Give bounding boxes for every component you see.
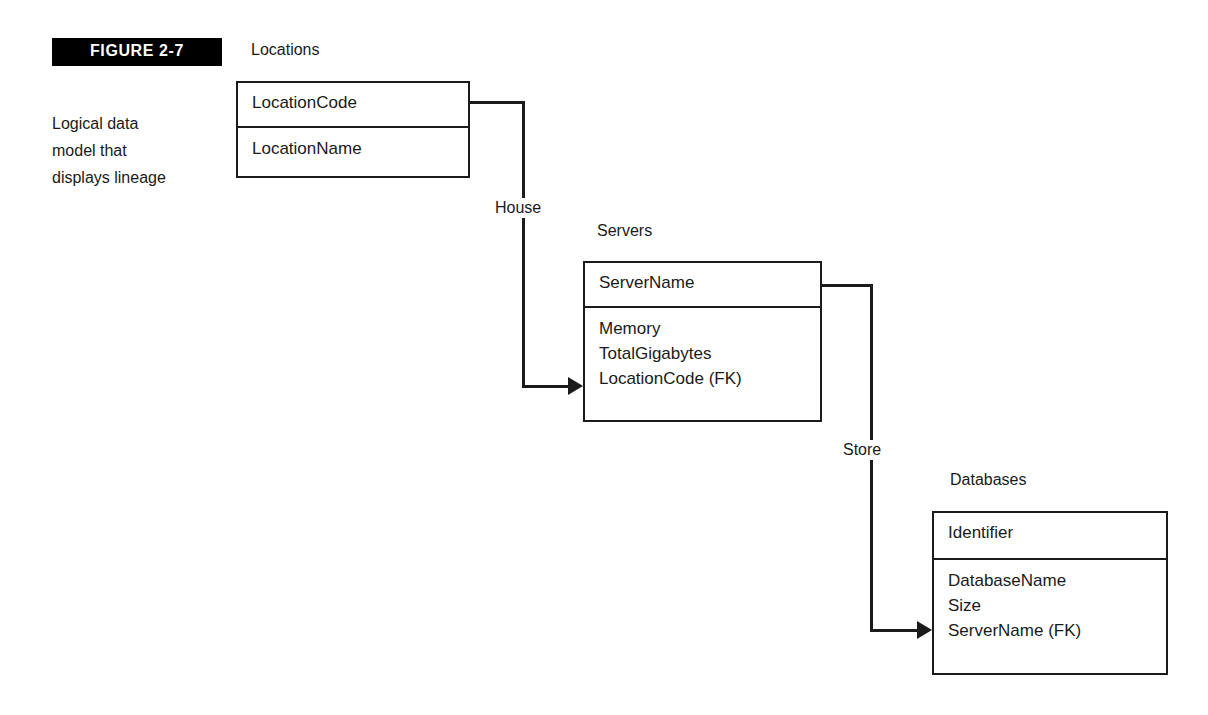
entity-attr-databasename: DatabaseName bbox=[948, 568, 1166, 593]
entity-key-servers: ServerName bbox=[585, 263, 820, 308]
entity-title-databases: Databases bbox=[950, 470, 1027, 490]
figure-caption-line-3: displays lineage bbox=[52, 164, 232, 191]
relationship-house-segment-horizontal-bottom bbox=[522, 385, 570, 388]
figure-caption-line-1: Logical data bbox=[52, 110, 232, 137]
relationship-house-segment-horizontal-top bbox=[470, 101, 525, 104]
entity-attrs-locations: LocationName bbox=[238, 128, 468, 169]
figure-canvas: FIGURE 2-7 Logical data model that displ… bbox=[0, 0, 1208, 715]
relationship-house-arrowhead bbox=[568, 377, 583, 395]
entity-attr-totalgigabytes: TotalGigabytes bbox=[599, 341, 820, 366]
relationship-store-segment-horizontal-bottom bbox=[870, 629, 919, 632]
relationship-label-store: Store bbox=[840, 440, 884, 460]
entity-key-databases: Identifier bbox=[934, 513, 1166, 560]
entity-title-servers: Servers bbox=[597, 221, 652, 241]
entity-attr-locationname: LocationName bbox=[252, 136, 468, 161]
figure-caption-line-2: model that bbox=[52, 137, 232, 164]
figure-caption: Logical data model that displays lineage bbox=[52, 110, 232, 191]
entity-attr-servername-fk: ServerName (FK) bbox=[948, 618, 1166, 643]
entity-attrs-databases: DatabaseName Size ServerName (FK) bbox=[934, 560, 1166, 651]
entity-attrs-servers: Memory TotalGigabytes LocationCode (FK) bbox=[585, 308, 820, 399]
entity-attr-memory: Memory bbox=[599, 316, 820, 341]
entity-box-databases: Identifier DatabaseName Size ServerName … bbox=[932, 511, 1168, 675]
entity-title-locations: Locations bbox=[251, 40, 320, 60]
entity-key-locations: LocationCode bbox=[238, 83, 468, 128]
entity-attr-locationcode-fk: LocationCode (FK) bbox=[599, 366, 820, 391]
relationship-house-segment-vertical bbox=[522, 101, 525, 388]
relationship-label-house: House bbox=[492, 198, 544, 218]
figure-badge: FIGURE 2-7 bbox=[52, 38, 222, 66]
entity-box-servers: ServerName Memory TotalGigabytes Locatio… bbox=[583, 261, 822, 422]
relationship-store-arrowhead bbox=[917, 621, 932, 639]
figure-badge-label: FIGURE 2-7 bbox=[52, 42, 222, 60]
entity-box-locations: LocationCode LocationName bbox=[236, 81, 470, 178]
relationship-store-segment-horizontal-top bbox=[822, 284, 873, 287]
entity-attr-size: Size bbox=[948, 593, 1166, 618]
